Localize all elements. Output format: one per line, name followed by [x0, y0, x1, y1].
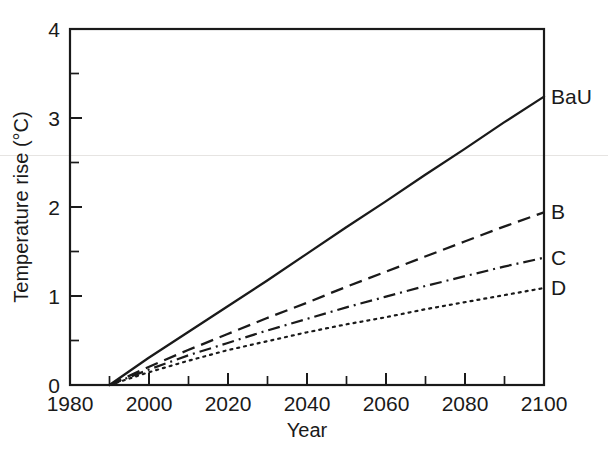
- temperature-rise-line-chart: 0 1 2 3 4 1980 2000 2020 2040 2060 2080 …: [0, 0, 608, 452]
- y-axis-title: Temperature rise (°C): [10, 111, 32, 302]
- figure-container: 0 1 2 3 4 1980 2000 2020 2040 2060 2080 …: [0, 0, 608, 452]
- series-label-c: C: [551, 246, 566, 269]
- x-axis-title: Year: [287, 419, 328, 441]
- series-line-d: [110, 288, 545, 385]
- x-axis-major-ticks: [70, 373, 544, 385]
- x-tick-label-2060: 2060: [363, 392, 410, 415]
- series-label-b: B: [551, 200, 565, 223]
- x-tick-label-2040: 2040: [284, 392, 331, 415]
- y-tick-label-4: 4: [48, 18, 60, 41]
- x-tick-label-2080: 2080: [442, 392, 489, 415]
- y-tick-label-1: 1: [48, 285, 60, 308]
- y-tick-label-3: 3: [48, 107, 60, 130]
- x-tick-label-2100: 2100: [521, 392, 568, 415]
- x-tick-label-1980: 1980: [47, 392, 94, 415]
- series-line-bau: [110, 97, 545, 385]
- y-axis-major-ticks: [70, 29, 82, 385]
- series-label-bau: BaU: [551, 85, 592, 108]
- series-line-c: [110, 258, 545, 385]
- series-label-d: D: [551, 276, 566, 299]
- x-tick-label-2000: 2000: [126, 392, 173, 415]
- x-tick-label-2020: 2020: [205, 392, 252, 415]
- y-tick-label-2: 2: [48, 196, 60, 219]
